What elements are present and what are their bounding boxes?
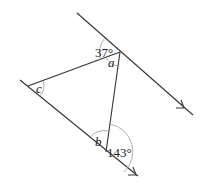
label-143: 143° [107, 145, 132, 160]
label-a: a [108, 55, 115, 70]
label-c: c [36, 81, 42, 96]
parallel-lines-diagram: 37° a c b 143° [0, 0, 202, 188]
upper-parallel-line [77, 13, 193, 115]
label-b: b [95, 134, 102, 149]
